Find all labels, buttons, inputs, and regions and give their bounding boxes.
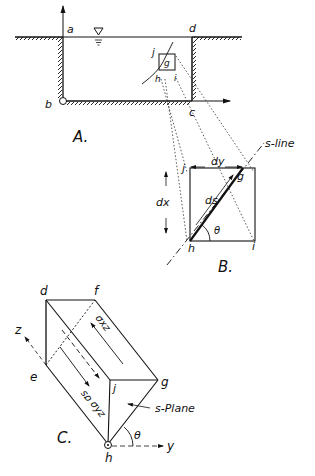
sigma-yz-arrow-icon <box>60 347 89 386</box>
label-s-plane: s-Plane <box>155 402 195 415</box>
label-d: d <box>189 22 197 35</box>
label-b: b <box>45 98 52 111</box>
theta-arc-c <box>124 427 133 446</box>
label-i-b: i <box>252 240 255 253</box>
label-f-c: f <box>94 284 100 298</box>
panel-a: a d b c j g h i A. <box>15 6 254 241</box>
label-c: c <box>189 106 195 119</box>
label-j: j <box>150 47 155 58</box>
label-theta-b: θ <box>214 225 220 236</box>
theta-arc <box>202 225 210 241</box>
label-s-line: s-line <box>265 137 295 150</box>
label-dx: dx <box>156 196 170 209</box>
label-theta-c: θ <box>134 429 141 442</box>
label-h: h <box>155 74 161 84</box>
ground-hatch-right <box>194 37 241 40</box>
caption-c: C. <box>57 429 72 447</box>
label-j-c: j <box>111 382 117 395</box>
caption-a: A. <box>72 128 88 146</box>
label-h-c: h <box>105 451 113 465</box>
label-i: i <box>174 73 177 83</box>
panel-b: j dy g dx ds θ h i s-line B. <box>156 137 295 276</box>
label-g-b: g <box>237 170 244 183</box>
label-sigma-yz: σyz <box>88 398 108 419</box>
label-d-c: d <box>40 284 48 298</box>
projection-lines <box>161 56 254 241</box>
caption-b: B. <box>218 258 233 276</box>
label-g: g <box>164 58 170 68</box>
label-g-c: g <box>161 375 169 389</box>
panel-c <box>25 300 163 449</box>
label-a: a <box>67 23 74 36</box>
label-ds: ds <box>205 194 218 207</box>
figure-canvas: a d b c j g h i A. j dy g dx ds θ h i s-… <box>0 0 315 476</box>
z-axis-arrow-icon <box>25 337 46 365</box>
label-h-b: h <box>188 242 195 255</box>
origin-circle-icon <box>60 98 67 105</box>
label-y: y <box>166 439 175 453</box>
sigma-s-arrow-icon <box>62 330 99 378</box>
label-z: z <box>14 323 22 337</box>
panel-c-labels: d f e j g h z y θ s-Plane σxz σs σyz C. <box>14 284 195 465</box>
element-square <box>190 168 255 241</box>
label-dy: dy <box>211 155 225 168</box>
label-e-c: e <box>30 370 37 384</box>
